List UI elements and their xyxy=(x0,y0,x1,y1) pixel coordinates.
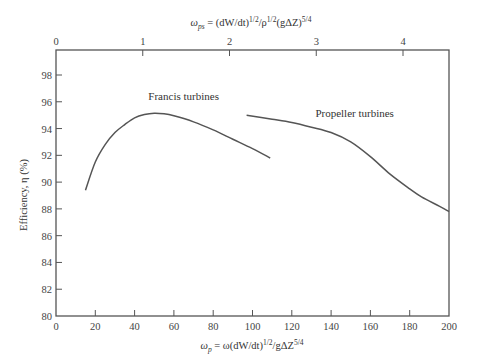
top-x-tick-label: 0 xyxy=(53,36,58,47)
curve-annotations: Francis turbinesPropeller turbines xyxy=(148,90,394,118)
x-tick-label: 60 xyxy=(169,321,180,332)
x-axis-ticks: 020406080100120140160180200 xyxy=(53,310,457,332)
y-tick-label: 82 xyxy=(42,284,53,295)
x-tick-label: 100 xyxy=(245,321,261,332)
top-x-tick-label: 1 xyxy=(140,36,145,47)
x-tick-label: 20 xyxy=(90,321,101,332)
x-tick-label: 80 xyxy=(208,321,219,332)
x-tick-label: 160 xyxy=(363,321,379,332)
y-tick-label: 84 xyxy=(42,257,53,268)
top-x-tick-label: 4 xyxy=(400,36,406,47)
francis-turbines-curve xyxy=(85,113,270,190)
y-tick-label: 80 xyxy=(42,311,53,322)
propeller-turbines-curve xyxy=(247,115,449,211)
x-tick-label: 200 xyxy=(441,321,457,332)
x-tick-label: 40 xyxy=(129,321,140,332)
plot-border xyxy=(56,50,449,316)
top-x-tick-label: 3 xyxy=(314,36,319,47)
x-tick-label: 180 xyxy=(402,321,418,332)
y-tick-label: 88 xyxy=(42,204,53,215)
data-curves xyxy=(85,113,449,211)
top-x-tick-label: 2 xyxy=(227,36,232,47)
y-tick-label: 96 xyxy=(42,97,53,108)
efficiency-chart: 80828486889092949698 0204060801001201401… xyxy=(0,0,478,360)
y-tick-label: 92 xyxy=(42,150,53,161)
y-axis-ticks: 80828486889092949698 xyxy=(42,70,63,322)
top-x-axis-ticks: 01234 xyxy=(53,36,406,56)
x-tick-label: 120 xyxy=(284,321,300,332)
y-tick-label: 94 xyxy=(42,124,53,135)
top-x-axis-title: ωps = (dW/dt)1/2/ρ1/2(gΔZ)5/4 xyxy=(191,15,312,31)
y-tick-label: 86 xyxy=(42,231,53,242)
y-tick-label: 98 xyxy=(42,70,53,81)
plot-frame xyxy=(56,50,449,316)
y-tick-label: 90 xyxy=(42,177,53,188)
y-axis-title: Efficiency, η (%) xyxy=(18,159,30,231)
x-tick-label: 0 xyxy=(53,321,58,332)
propeller-turbines-label: Propeller turbines xyxy=(315,107,394,119)
x-tick-label: 140 xyxy=(323,321,339,332)
francis-turbines-label: Francis turbines xyxy=(148,90,219,102)
x-axis-title: ωp = ω(dW/dt)1/2/gΔZ5/4 xyxy=(200,338,303,354)
